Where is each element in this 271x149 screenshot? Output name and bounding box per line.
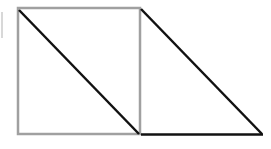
square-diagonal: [19, 10, 139, 134]
diagram-canvas: [0, 0, 271, 149]
geometry-figure: [0, 0, 271, 149]
triangle-hypotenuse: [141, 9, 262, 134]
